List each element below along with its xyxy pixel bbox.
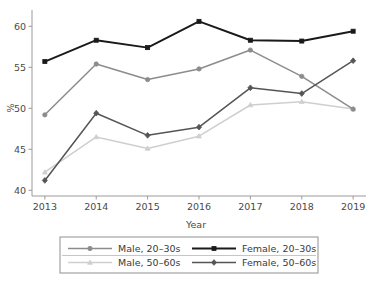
x-tick-label: 2016 [187,201,211,212]
x-tick-label: 2015 [136,201,160,212]
square-marker [197,19,201,23]
legend-item-label: Male, 20–30s [118,243,180,254]
square-marker [43,60,47,64]
chart-legend[interactable]: Male, 20–30sFemale, 20–30sMale, 50–60sFe… [60,237,318,273]
x-tick-label: 2018 [290,201,314,212]
x-axis-title: Year [185,219,206,230]
line-chart: % 4045505560 201320142015201620172018201… [0,0,377,283]
square-marker [248,38,252,42]
square-marker [351,29,355,33]
y-tick-label: 50 [14,103,26,114]
circle-marker [351,107,355,111]
x-tick-label: 2017 [238,201,262,212]
square-marker [212,246,216,250]
y-tick-label: 45 [14,144,26,155]
circle-marker [248,48,252,52]
circle-marker [94,62,98,66]
chart-figure: % 4045505560 201320142015201620172018201… [0,0,377,283]
circle-marker [300,74,304,78]
legend-item-label: Female, 20–30s [242,243,316,254]
square-marker [94,38,98,42]
y-tick-label: 60 [14,21,26,32]
x-tick-label: 2019 [341,201,365,212]
circle-marker [88,246,92,250]
legend-item-label: Female, 50–60s [242,257,316,268]
circle-marker [145,77,149,81]
x-tick-label: 2014 [84,201,108,212]
x-tick-label: 2013 [33,201,57,212]
square-marker [146,46,150,50]
circle-marker [197,67,201,71]
y-tick-label: 40 [14,185,26,196]
legend-item-label: Male, 50–60s [118,257,180,268]
circle-marker [43,113,47,117]
y-tick-label: 55 [14,62,26,73]
square-marker [300,39,304,43]
